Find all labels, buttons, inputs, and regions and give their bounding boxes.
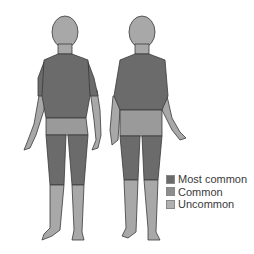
- front-head: [52, 16, 78, 48]
- front-left-thigh: [46, 135, 66, 185]
- body-diagram: [0, 0, 254, 254]
- back-buttocks: [120, 110, 162, 136]
- legend-item-uncommon: Uncommon: [166, 198, 247, 211]
- front-right-thigh: [68, 135, 88, 185]
- legend-label: Common: [178, 186, 223, 198]
- swatch-uncommon-icon: [166, 200, 175, 209]
- back-torso: [114, 54, 168, 110]
- front-torso: [42, 54, 90, 118]
- legend-item-common: Common: [166, 186, 247, 199]
- legend: Most common Common Uncommon: [166, 173, 247, 211]
- front-figure: [24, 16, 101, 240]
- legend-label: Uncommon: [178, 198, 234, 210]
- legend-label: Most common: [178, 173, 247, 185]
- front-right-forearm: [90, 90, 101, 150]
- front-left-leg: [42, 185, 64, 240]
- front-pelvis: [46, 118, 88, 135]
- back-head: [129, 16, 155, 48]
- front-right-leg: [72, 185, 84, 240]
- swatch-common-icon: [166, 187, 175, 196]
- swatch-most-common-icon: [166, 175, 175, 184]
- legend-item-most-common: Most common: [166, 173, 247, 186]
